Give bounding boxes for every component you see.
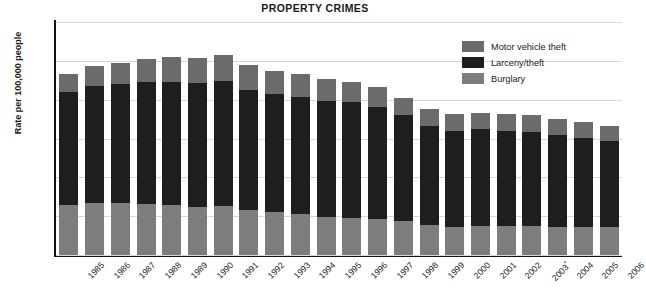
x-axis-tick-label-1996: 1996 <box>368 260 389 281</box>
legend-item-label: Burglary <box>491 74 525 84</box>
bar-2004 <box>548 119 567 255</box>
bar-segment-motor-vehicle-theft <box>214 55 233 81</box>
bar-1993 <box>265 71 284 255</box>
x-axis-tick-label-1992: 1992 <box>266 260 287 281</box>
bar-segment-larceny-theft <box>239 90 258 210</box>
legend-swatch-icon <box>462 73 484 84</box>
bar-1990 <box>188 58 207 255</box>
bar-segment-larceny-theft <box>394 115 413 221</box>
bar-segment-burglary <box>600 227 619 255</box>
bar-1986 <box>85 66 104 255</box>
bar-2003 <box>522 115 541 255</box>
bar-segment-motor-vehicle-theft <box>59 74 78 92</box>
bar-segment-motor-vehicle-theft <box>342 82 361 102</box>
x-axis-tick-label-1989: 1989 <box>188 260 209 281</box>
gridline <box>56 255 622 256</box>
bar-1997 <box>368 87 387 255</box>
bar-segment-burglary <box>445 227 464 255</box>
bar-segment-burglary <box>188 207 207 255</box>
bar-segment-burglary <box>162 205 181 255</box>
bar-2005 <box>574 122 593 255</box>
legend-item[interactable]: Motor vehicle theft <box>462 40 566 53</box>
bar-1999 <box>420 109 439 255</box>
bar-segment-burglary <box>291 214 310 255</box>
bar-segment-motor-vehicle-theft <box>368 87 387 107</box>
bar-segment-burglary <box>265 212 284 255</box>
bar-segment-larceny-theft <box>137 82 156 204</box>
bar-segment-motor-vehicle-theft <box>137 59 156 82</box>
bar-segment-burglary <box>420 225 439 255</box>
chart-title: PROPERTY CRIMES <box>0 2 630 14</box>
bar-1991 <box>214 55 233 255</box>
x-axis-tick-label-1987: 1987 <box>137 260 158 281</box>
bar-segment-larceny-theft <box>522 132 541 226</box>
bar-2002 <box>497 114 516 255</box>
x-axis-tick-label-1999: 1999 <box>446 260 467 281</box>
bar-1985 <box>59 74 78 255</box>
bar-segment-motor-vehicle-theft <box>111 63 130 84</box>
bar-segment-larceny-theft <box>59 92 78 205</box>
x-axis-tick-label-1995: 1995 <box>343 260 364 281</box>
bar-segment-burglary <box>214 206 233 255</box>
bar-segment-motor-vehicle-theft <box>497 114 516 131</box>
bar-2000 <box>445 114 464 255</box>
x-axis-tick-label-2003: 2003* <box>549 260 572 283</box>
bar-1987 <box>111 63 130 255</box>
y-axis-title: Rate per 100,000 people <box>13 3 23 163</box>
bar-segment-motor-vehicle-theft <box>317 79 336 101</box>
legend-swatch-icon <box>462 57 484 68</box>
bar-segment-burglary <box>317 217 336 255</box>
bar-segment-larceny-theft <box>214 81 233 206</box>
x-axis-tick-labels: 1985198619871988198919901991199219931994… <box>56 258 622 292</box>
x-axis-tick-label-2001: 2001 <box>497 260 518 281</box>
bar-segment-motor-vehicle-theft <box>471 113 490 130</box>
bar-segment-larceny-theft <box>445 131 464 227</box>
x-axis-tick-label-1988: 1988 <box>163 260 184 281</box>
bar-segment-larceny-theft <box>85 86 104 203</box>
x-axis-tick-label-1994: 1994 <box>317 260 338 281</box>
chart-legend: Motor vehicle theftLarceny/theftBurglary <box>462 40 566 85</box>
bar-segment-motor-vehicle-theft <box>445 114 464 130</box>
x-axis-tick-label-1986: 1986 <box>111 260 132 281</box>
x-axis-tick-label-1985: 1985 <box>85 260 106 281</box>
bar-segment-burglary <box>471 226 490 255</box>
bar-segment-larceny-theft <box>317 101 336 217</box>
bar-segment-motor-vehicle-theft <box>420 109 439 125</box>
bar-segment-motor-vehicle-theft <box>522 115 541 132</box>
x-axis-tick-label-1993: 1993 <box>291 260 312 281</box>
bar-segment-motor-vehicle-theft <box>548 119 567 135</box>
legend-item[interactable]: Burglary <box>462 72 566 85</box>
bar-segment-larceny-theft <box>291 97 310 215</box>
bar-segment-motor-vehicle-theft <box>291 74 310 97</box>
x-axis-tick-label-1998: 1998 <box>420 260 441 281</box>
bar-segment-larceny-theft <box>471 129 490 226</box>
bar-segment-burglary <box>394 221 413 255</box>
bar-segment-motor-vehicle-theft <box>188 58 207 83</box>
bar-segment-burglary <box>111 203 130 255</box>
bar-segment-motor-vehicle-theft <box>394 98 413 116</box>
bar-1994 <box>291 74 310 255</box>
legend-item[interactable]: Larceny/theft <box>462 56 566 69</box>
bar-segment-larceny-theft <box>188 83 207 207</box>
x-axis-tick-label-1990: 1990 <box>214 260 235 281</box>
bar-segment-burglary <box>548 227 567 255</box>
bar-2006 <box>600 126 619 255</box>
bar-segment-motor-vehicle-theft <box>574 122 593 138</box>
bar-segment-motor-vehicle-theft <box>600 126 619 141</box>
bar-segment-larceny-theft <box>368 107 387 219</box>
bar-segment-larceny-theft <box>420 126 439 225</box>
bar-segment-motor-vehicle-theft <box>239 65 258 89</box>
x-axis-tick-label-2006: 2006 <box>626 260 646 281</box>
bar-segment-larceny-theft <box>497 131 516 226</box>
bar-segment-larceny-theft <box>574 138 593 227</box>
bar-segment-larceny-theft <box>162 82 181 205</box>
bar-segment-motor-vehicle-theft <box>265 71 284 94</box>
bar-1989 <box>162 57 181 255</box>
bar-segment-larceny-theft <box>111 84 130 204</box>
bar-1995 <box>317 79 336 255</box>
bar-segment-larceny-theft <box>342 102 361 218</box>
bar-segment-burglary <box>239 210 258 255</box>
bar-segment-motor-vehicle-theft <box>85 66 104 86</box>
x-axis-tick-label-2005: 2005 <box>600 260 621 281</box>
